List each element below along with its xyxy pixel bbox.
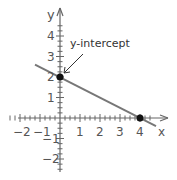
data-point xyxy=(137,115,144,122)
y-tick-label: 3 xyxy=(47,51,55,63)
y-tick-label: −1 xyxy=(42,133,60,145)
y-tick-label: 4 xyxy=(47,30,55,42)
y-tick-label: 2 xyxy=(47,71,55,83)
x-tick-label: −2 xyxy=(13,126,31,138)
x-axis-label: x xyxy=(158,126,165,138)
coordinate-plane xyxy=(0,0,177,180)
x-tick-label: 3 xyxy=(116,126,124,138)
y-tick-label: −2 xyxy=(42,153,60,165)
data-point xyxy=(57,74,64,81)
x-tick-label: 1 xyxy=(76,126,84,138)
y-tick-label: 1 xyxy=(47,92,55,104)
x-tick-label: 4 xyxy=(136,126,144,138)
x-tick-label: 2 xyxy=(96,126,104,138)
annotation-arrow xyxy=(64,54,83,73)
y-axis-label: y xyxy=(47,8,55,21)
y-intercept-annotation: y-intercept xyxy=(70,38,130,49)
